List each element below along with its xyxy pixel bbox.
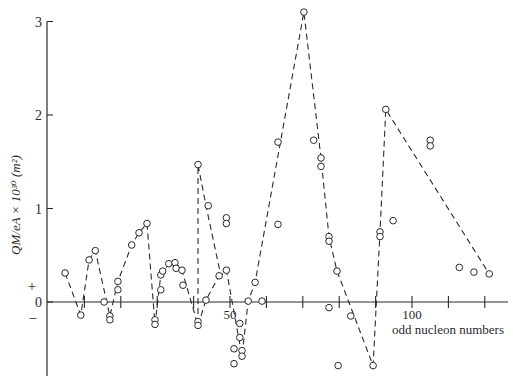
data-point-circle: [318, 163, 325, 170]
x-axis-label: odd nucleon numbers: [392, 322, 504, 337]
data-point-circle: [486, 271, 493, 278]
y-tick-label: 0: [35, 295, 42, 310]
data-point-circle: [92, 247, 99, 254]
data-point-circle: [159, 268, 166, 275]
dashed-line: [198, 270, 226, 325]
data-point-circle: [471, 269, 478, 276]
data-point-circle: [128, 242, 135, 249]
data-point-circle: [166, 260, 173, 267]
data-point-circle: [237, 320, 244, 327]
data-point-circle: [195, 322, 202, 329]
data-point-circle: [335, 362, 342, 369]
data-point-circle: [275, 139, 282, 146]
data-point-circle: [144, 220, 151, 227]
data-point-circle: [231, 360, 238, 367]
data-point-circle: [231, 346, 238, 353]
data-point-circle: [348, 313, 355, 320]
y-axis-label: QM/eA × 10³⁰ (m²): [8, 155, 23, 255]
data-point-circle: [86, 257, 93, 264]
data-point-circle: [326, 238, 333, 245]
positive-sign-label: +: [28, 279, 36, 294]
data-point-circle: [334, 268, 341, 275]
data-point-circle: [383, 106, 390, 113]
data-point-circle: [259, 298, 266, 305]
y-tick-label: 3: [35, 15, 42, 30]
data-point-circle: [115, 278, 122, 285]
data-point-circle: [179, 267, 186, 274]
dashed-line: [65, 12, 489, 366]
data-point-circle: [310, 137, 317, 144]
data-point-circle: [390, 217, 397, 224]
data-point-circle: [216, 273, 223, 280]
data-point-circle: [223, 220, 230, 227]
x-tick-label: 100: [402, 307, 422, 322]
data-point-circle: [456, 264, 463, 271]
data-point-circle: [301, 9, 308, 16]
data-point-circle: [318, 155, 325, 162]
data-points: [62, 9, 493, 369]
data-point-circle: [136, 230, 143, 237]
data-point-circle: [101, 299, 108, 306]
data-point-circle: [275, 221, 282, 228]
data-point-circle: [78, 312, 85, 319]
data-point-circle: [195, 161, 202, 168]
data-point-circle: [180, 282, 187, 289]
quadrupole-moment-chart: 012350100 QM/eA × 10³⁰ (m²) odd nucleon …: [0, 0, 513, 379]
data-point-circle: [237, 334, 244, 341]
data-point-circle: [370, 362, 377, 369]
data-point-circle: [252, 279, 259, 286]
data-point-circle: [158, 287, 165, 294]
data-point-circle: [239, 353, 246, 360]
data-point-circle: [427, 143, 434, 150]
data-point-circle: [205, 202, 212, 209]
data-point-circle: [377, 233, 384, 240]
dashed-trend-lines: [65, 12, 489, 366]
data-point-circle: [245, 298, 252, 305]
data-point-circle: [223, 267, 230, 274]
data-point-circle: [62, 270, 69, 277]
data-point-circle: [107, 317, 114, 324]
negative-sign-label: –: [29, 310, 38, 325]
y-tick-label: 1: [35, 202, 42, 217]
data-point-circle: [326, 304, 333, 311]
data-point-circle: [115, 287, 122, 294]
y-tick-label: 2: [35, 108, 42, 123]
data-point-circle: [152, 321, 159, 328]
data-point-circle: [203, 297, 210, 304]
axis-ticks: 012350100: [35, 15, 485, 323]
